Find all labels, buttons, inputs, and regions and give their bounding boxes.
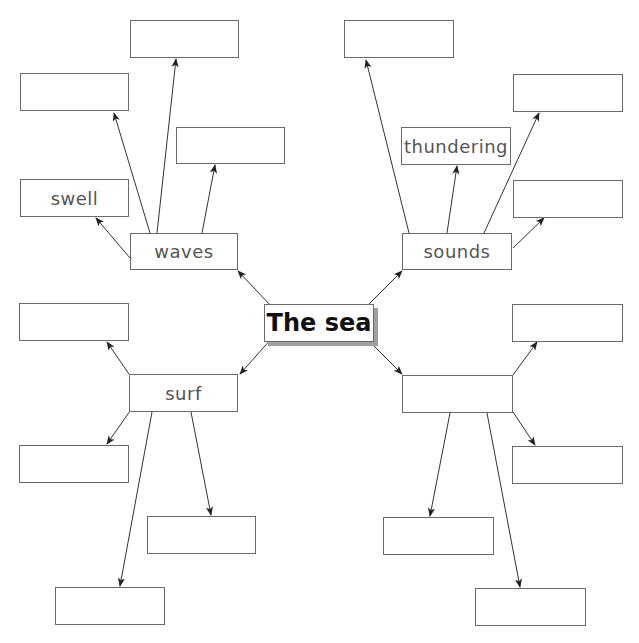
connector-arrow	[487, 413, 520, 587]
empty-answer-box[interactable]	[512, 304, 623, 342]
empty-answer-box[interactable]	[513, 180, 623, 218]
connector-arrow	[191, 412, 211, 515]
empty-answer-box[interactable]	[475, 588, 586, 626]
connector-arrow	[513, 412, 535, 445]
central-topic-label: The sea	[267, 309, 372, 337]
empty-answer-box[interactable]	[19, 303, 129, 341]
connector-arrow	[366, 271, 402, 307]
branch-box-sounds-label: sounds	[423, 241, 490, 262]
connector-arrow	[120, 412, 152, 586]
empty-answer-box[interactable]	[130, 20, 239, 58]
leaf-box-swell: swell	[20, 179, 129, 217]
connector-arrow	[107, 342, 129, 374]
leaf-box-thundering: thundering	[401, 127, 511, 165]
branch-box-surf: surf	[129, 374, 238, 412]
mind-map-canvas: wavesswellsoundsthunderingsurf The sea	[0, 0, 639, 643]
branch-box-surf-label: surf	[165, 383, 202, 404]
empty-answer-box[interactable]	[344, 20, 454, 58]
empty-answer-box[interactable]	[512, 446, 623, 484]
empty-answer-box[interactable]	[55, 587, 165, 625]
connector-arrow	[430, 413, 450, 516]
connector-arrow	[96, 218, 130, 258]
central-topic-box: The sea	[264, 304, 374, 342]
empty-answer-box[interactable]	[513, 74, 623, 112]
leaf-box-swell-label: swell	[51, 188, 99, 209]
connector-arrow	[366, 338, 402, 374]
branch-box-waves: waves	[130, 233, 238, 270]
leaf-box-thundering-label: thundering	[404, 136, 508, 157]
connector-arrow	[513, 218, 544, 248]
connector-arrow	[238, 271, 272, 307]
empty-answer-box[interactable]	[176, 127, 285, 164]
empty-answer-box[interactable]	[19, 445, 129, 483]
connector-arrow	[157, 59, 176, 233]
empty-answer-box[interactable]	[147, 516, 256, 554]
connector-arrow	[240, 338, 272, 374]
empty-answer-box[interactable]	[383, 517, 494, 555]
branch-box-unnamed[interactable]	[402, 375, 513, 413]
branch-box-sounds: sounds	[402, 233, 512, 270]
connector-arrow	[513, 342, 537, 375]
branch-box-waves-label: waves	[154, 241, 213, 262]
connector-arrow	[202, 165, 215, 233]
empty-answer-box[interactable]	[20, 73, 129, 111]
connector-arrow	[447, 166, 457, 233]
connector-arrow	[107, 411, 130, 444]
